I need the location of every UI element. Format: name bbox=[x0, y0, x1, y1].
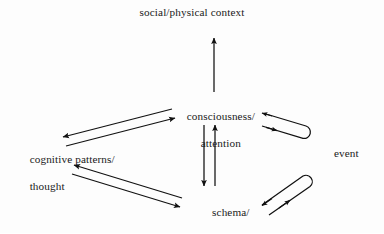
node-schema-interpretation: schema/ interpretation bbox=[150, 192, 300, 233]
node-consciousness-attention: consciousness/ attention bbox=[140, 96, 290, 164]
diagram-canvas: social/physical context consciousness/ a… bbox=[0, 0, 384, 233]
node-cognitive-patterns-thought-line1: cognitive patterns/ bbox=[30, 153, 115, 165]
node-event: event bbox=[334, 147, 384, 161]
node-cognitive-patterns-thought-line2: thought bbox=[30, 180, 65, 192]
node-cognitive-patterns-thought: cognitive patterns/ thought bbox=[18, 139, 148, 207]
node-consciousness-attention-line1: consciousness/ bbox=[187, 110, 255, 122]
node-schema-interpretation-line1: schema/ bbox=[212, 206, 249, 218]
node-social-physical-context: social/physical context bbox=[0, 6, 384, 20]
node-schema-interpretation-line2: interpretation bbox=[200, 233, 262, 234]
node-consciousness-attention-line2: attention bbox=[201, 137, 241, 149]
